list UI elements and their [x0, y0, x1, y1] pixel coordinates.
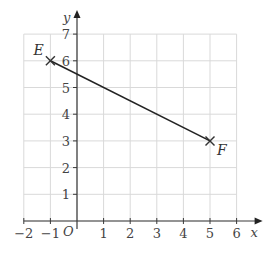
- x-tick-label: 6: [232, 226, 240, 241]
- x-tick-label: −1: [41, 226, 60, 241]
- x-axis-label: x: [251, 225, 259, 240]
- x-tick-label: 5: [206, 226, 214, 241]
- x-tick-label: 4: [179, 226, 187, 241]
- x-axis-arrow-icon: [255, 218, 263, 225]
- grid-lines: [24, 34, 237, 221]
- y-tick-label: 2: [62, 161, 70, 176]
- x-tick-label: 1: [99, 226, 107, 241]
- axes: [24, 10, 263, 229]
- y-axis-arrow-icon: [74, 10, 81, 18]
- x-tick-label: 2: [126, 226, 134, 241]
- y-tick-label: 5: [62, 81, 70, 96]
- y-tick-label: 3: [62, 134, 70, 149]
- x-tick-label: 3: [153, 226, 161, 241]
- x-tick-label: −2: [14, 226, 33, 241]
- y-axis-label: y: [62, 10, 71, 25]
- coordinate-plot: −2−11234561234567 EF x y O: [0, 0, 273, 255]
- y-tick-label: 7: [62, 27, 70, 42]
- y-tick-label: 1: [62, 187, 70, 202]
- origin-label: O: [63, 224, 74, 239]
- y-tick-label: 4: [62, 107, 70, 122]
- point-label-f: F: [216, 142, 228, 158]
- point-label-e: E: [32, 42, 43, 58]
